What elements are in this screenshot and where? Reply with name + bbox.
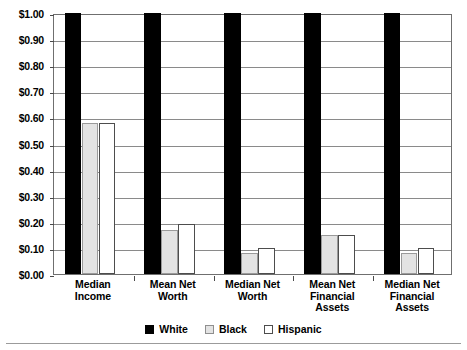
- x-axis-category-label: Mean NetFinancialAssets: [292, 279, 372, 314]
- x-axis-labels: MedianIncomeMean NetWorthMedian NetWorth…: [53, 279, 452, 325]
- y-axis-tickmark: [50, 41, 54, 42]
- bar-black-1: [161, 230, 178, 274]
- y-axis-tickmark: [50, 198, 54, 199]
- bar-white-4: [384, 13, 401, 274]
- x-axis-category-label: Median NetFinancialAssets: [372, 279, 452, 314]
- bar-black-4: [401, 253, 418, 274]
- chart-legend: WhiteBlackHispanic: [0, 324, 467, 335]
- x-axis-category-label: Median NetWorth: [213, 279, 293, 302]
- x-axis-category-line: Assets: [372, 302, 452, 314]
- y-axis-tickmark: [50, 146, 54, 147]
- legend-item-hispanic: Hispanic: [264, 324, 322, 335]
- legend-label: Black: [219, 324, 247, 335]
- legend-label: White: [159, 324, 188, 335]
- x-axis-category-line: Worth: [133, 291, 213, 303]
- bar-black-2: [241, 253, 258, 274]
- bar-hispanic-0: [99, 123, 116, 274]
- bar-hispanic-3: [338, 235, 355, 274]
- x-axis-category-line: Mean Net: [133, 279, 213, 291]
- x-axis-category-line: Assets: [292, 302, 372, 314]
- y-axis-tick-label: $0.50: [19, 139, 44, 150]
- x-axis-category-label: MedianIncome: [53, 279, 133, 302]
- y-axis: $0.00$0.10$0.20$0.30$0.40$0.50$0.60$0.70…: [0, 14, 48, 275]
- bar-hispanic-1: [178, 224, 195, 274]
- x-axis-category-line: Worth: [213, 291, 293, 303]
- legend-swatch-icon: [205, 325, 214, 334]
- bottom-divider: [6, 343, 461, 344]
- legend-swatch-icon: [264, 325, 273, 334]
- x-axis-category-line: Income: [53, 291, 133, 303]
- y-axis-tickmark: [50, 224, 54, 225]
- x-axis-category-line: Median Net: [372, 279, 452, 291]
- bar-chart: $0.00$0.10$0.20$0.30$0.40$0.50$0.60$0.70…: [0, 0, 467, 350]
- bar-white-0: [65, 13, 82, 274]
- y-axis-tickmark: [50, 67, 54, 68]
- y-axis-tick-label: $0.20: [19, 218, 44, 229]
- bar-white-2: [224, 13, 241, 274]
- y-axis-tick-label: $0.30: [19, 191, 44, 202]
- y-axis-tick-label: $0.90: [19, 35, 44, 46]
- y-axis-tick-label: $0.70: [19, 87, 44, 98]
- bar-white-3: [304, 13, 321, 274]
- legend-item-black: Black: [205, 324, 247, 335]
- x-axis-category-label: Mean NetWorth: [133, 279, 213, 302]
- legend-swatch-icon: [145, 325, 154, 334]
- y-axis-tick-label: $0.40: [19, 165, 44, 176]
- y-axis-tick-label: $0.80: [19, 61, 44, 72]
- x-axis-category-line: Median: [53, 279, 133, 291]
- y-axis-tickmark: [50, 172, 54, 173]
- bar-hispanic-2: [258, 248, 275, 274]
- y-axis-tick-label: $0.10: [19, 244, 44, 255]
- y-axis-tickmark: [50, 250, 54, 251]
- bar-hispanic-4: [418, 248, 435, 274]
- y-axis-tickmark: [50, 276, 54, 277]
- y-axis-tick-label: $0.60: [19, 113, 44, 124]
- legend-item-white: White: [145, 324, 188, 335]
- y-axis-tickmark: [50, 119, 54, 120]
- bar-white-1: [144, 13, 161, 274]
- bar-black-3: [321, 235, 338, 274]
- plot-area: [53, 14, 452, 275]
- y-axis-tickmark: [50, 15, 54, 16]
- legend-label: Hispanic: [278, 324, 322, 335]
- x-axis-category-line: Mean Net: [292, 279, 372, 291]
- y-axis-tick-label: $0.00: [19, 270, 44, 281]
- y-axis-tickmark: [50, 93, 54, 94]
- y-axis-tick-label: $1.00: [19, 9, 44, 20]
- x-axis-category-line: Median Net: [213, 279, 293, 291]
- bar-black-0: [82, 123, 99, 274]
